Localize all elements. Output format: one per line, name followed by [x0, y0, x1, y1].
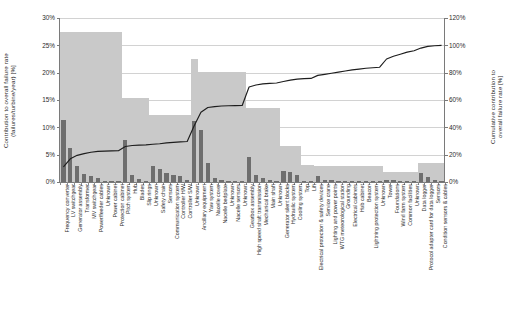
- x-axis-category-label: Unknown: [278, 184, 284, 206]
- x-axis-category-label: Yaw system: [209, 184, 215, 212]
- y-axis-left-tick-label: 15%: [29, 96, 55, 103]
- x-axis-category-label: Ancillary equipment: [202, 184, 208, 230]
- x-axis-category-label: Protocol adapter card for data logger: [429, 184, 435, 270]
- x-axis-category-label: Blades: [140, 184, 146, 200]
- x-axis-category-label: Sensors: [436, 184, 442, 203]
- y-axis-right-tick-label: 80%: [449, 69, 475, 76]
- y-axis-right-title: Cumulative contribution to overall failu…: [489, 42, 505, 172]
- y-axis-left-tick-label: 10%: [29, 124, 55, 131]
- y-axis-left-tick-label: 20%: [29, 69, 55, 76]
- y-axis-left-tick-label: 0%: [29, 178, 55, 185]
- y-axis-right-tick-label: 40%: [449, 124, 475, 131]
- y-axis-right-tick-label: 100%: [449, 42, 475, 49]
- x-axis-category-label: MV switchgear: [92, 184, 98, 219]
- x-axis-category-label: Lightning protection system: [374, 184, 380, 248]
- x-axis-category-label: Lift: [312, 184, 318, 191]
- x-axis-category-label: Unknown: [381, 184, 387, 206]
- y-axis-right-tick-label: 120%: [449, 14, 475, 21]
- x-axis-category-label: Power/feeder cables: [99, 184, 105, 232]
- x-axis-category-labels: Frequency converterLV switchgearGenerato…: [59, 184, 445, 314]
- x-axis-category-label: Data logger: [422, 184, 428, 211]
- cumulative-line: [60, 18, 445, 182]
- y-axis-right-tick: [445, 18, 448, 19]
- x-axis-category-label: Nacelle bedplate: [223, 184, 229, 223]
- y-axis-right-tick: [445, 127, 448, 128]
- x-axis-category-label: Lighting and power points: [333, 184, 339, 244]
- x-axis-category-label: Condition sensors & cables: [443, 184, 449, 248]
- x-axis-category-label: Safety chain: [161, 184, 167, 213]
- x-axis-category-label: Tower: [388, 184, 394, 198]
- x-axis-category-label: Power cabinet: [113, 184, 119, 218]
- y-axis-left-tick-label: 30%: [29, 14, 55, 21]
- y-axis-right-tick: [445, 155, 448, 156]
- x-axis-category-label: Gearbox assembly: [250, 184, 256, 228]
- y-axis-left-title: Contribution to overall failure rate (fa…: [2, 26, 18, 176]
- x-axis-category-label: Top: [305, 184, 311, 193]
- y-axis-right-tick-label: 60%: [449, 96, 475, 103]
- y-axis-right-tick: [445, 73, 448, 74]
- y-axis-right-tick: [445, 100, 448, 101]
- x-axis-category-label: Sensors: [168, 184, 174, 203]
- y-axis-left-tick-label: 25%: [29, 42, 55, 49]
- y-axis-right-tick-label: 0%: [449, 178, 475, 185]
- x-axis-category-label: Hub cabinet: [360, 184, 366, 212]
- x-axis-category-label: High speed shaft transmission: [257, 184, 263, 255]
- x-axis-category-label: Mechanical brake: [264, 184, 270, 226]
- x-axis-category-label: Service crane: [326, 184, 332, 216]
- y-axis-right-tick-label: 20%: [449, 151, 475, 158]
- x-axis-category-label: Electrical protection & safety devices: [319, 184, 325, 270]
- y-axis-right-tick: [445, 45, 448, 46]
- x-axis-category-label: Unknown: [195, 184, 201, 206]
- x-axis-category-label: Main shaft: [271, 184, 277, 208]
- x-axis-category-label: Slip rings: [147, 184, 153, 206]
- x-axis-category-label: Beacon: [367, 184, 373, 202]
- plot-area: 30%25%20%15%10%5%0% 120%100%80%60%40%20%…: [59, 18, 445, 183]
- x-axis-category-label: Nacelle cover: [216, 184, 222, 216]
- x-axis-category-label: Transformer: [85, 184, 91, 213]
- pareto-chart: Contribution to overall failure rate (fa…: [0, 0, 506, 317]
- x-axis-category-label: Unknown: [154, 184, 160, 206]
- plot-right-axis-line: [444, 18, 445, 183]
- x-axis-category-label: Unknown: [106, 184, 112, 206]
- y-axis-left-tick-label: 5%: [29, 151, 55, 158]
- x-axis-category-label: Unknown: [415, 184, 421, 206]
